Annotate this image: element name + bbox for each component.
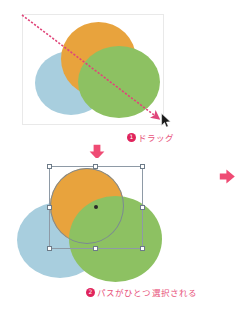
caption-step-2: 2 パスがひとつ選択される — [86, 286, 198, 298]
step-number-badge-1: 1 — [127, 133, 136, 142]
ellipse-green[interactable] — [78, 46, 160, 118]
panel-before-selection — [22, 14, 164, 125]
handle-middle-left[interactable] — [47, 205, 52, 210]
arrow-right-icon — [219, 168, 236, 185]
handle-bottom-right[interactable] — [140, 246, 145, 251]
artwork-group-2 — [14, 158, 174, 286]
caption-step-1: 1 ドラッグ — [127, 131, 174, 143]
handle-bottom-left[interactable] — [47, 246, 52, 251]
step-number-badge-2: 2 — [86, 288, 95, 297]
path-center-point — [94, 205, 98, 209]
caption-step-2-label: パスがひとつ選択される — [97, 286, 198, 298]
handle-top-left[interactable] — [47, 164, 52, 169]
handle-top-center[interactable] — [93, 164, 98, 169]
handle-top-right[interactable] — [140, 164, 145, 169]
caption-step-1-label: ドラッグ — [138, 131, 175, 143]
handle-bottom-center[interactable] — [93, 246, 98, 251]
artwork-group-1 — [23, 15, 163, 124]
panel-after-selection — [14, 158, 174, 286]
illustration-stage: 1 ドラッグ — [0, 0, 247, 312]
handle-middle-right[interactable] — [140, 205, 145, 210]
